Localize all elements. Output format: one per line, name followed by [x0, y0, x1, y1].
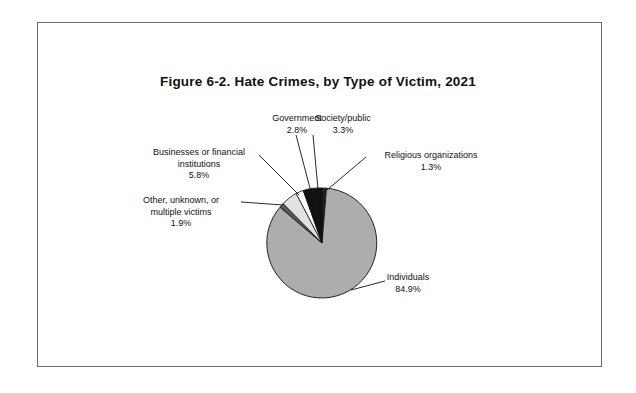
pie-label-religious-organizations: Religious organizations 1.3% — [371, 150, 491, 173]
pie-label-religious-organizations-pct: 1.3% — [371, 162, 491, 174]
pie-label-other-unknown-multiple-victims: Other, unknown, or multiple victims 1.9% — [121, 195, 241, 230]
pie-label-individuals: Individuals 84.9% — [363, 272, 453, 295]
pie-chart: Government 2.8% Society/public 3.3% Busi… — [0, 0, 636, 393]
leader-line-religious-organizations — [327, 157, 366, 190]
leader-line-society-public — [313, 135, 318, 189]
pie-label-individuals-name: Individuals — [363, 272, 453, 284]
pie-label-other-line1: Other, unknown, or — [121, 195, 241, 207]
pie-label-religious-organizations-name: Religious organizations — [371, 150, 491, 162]
pie-label-businesses-line2: institutions — [139, 159, 259, 171]
pie-label-businesses-pct: 5.8% — [139, 170, 259, 182]
pie-label-individuals-pct: 84.9% — [363, 284, 453, 296]
pie-chart-svg — [0, 0, 636, 393]
pie-label-businesses-or-financial-institutions: Businesses or financial institutions 5.8… — [139, 147, 259, 182]
leader-line-government — [296, 135, 311, 192]
leader-line-other-unknown — [241, 202, 283, 205]
pie-label-society-public: Society/public 3.3% — [288, 113, 398, 136]
pie-label-businesses-line1: Businesses or financial — [139, 147, 259, 159]
pie-label-society-public-name: Society/public — [288, 113, 398, 125]
pie-label-other-line2: multiple victims — [121, 207, 241, 219]
leader-line-businesses — [259, 155, 299, 195]
pie-label-society-public-pct: 3.3% — [288, 125, 398, 137]
figure-root: Figure 6-2. Hate Crimes, by Type of Vict… — [0, 0, 636, 393]
pie-label-other-pct: 1.9% — [121, 218, 241, 230]
